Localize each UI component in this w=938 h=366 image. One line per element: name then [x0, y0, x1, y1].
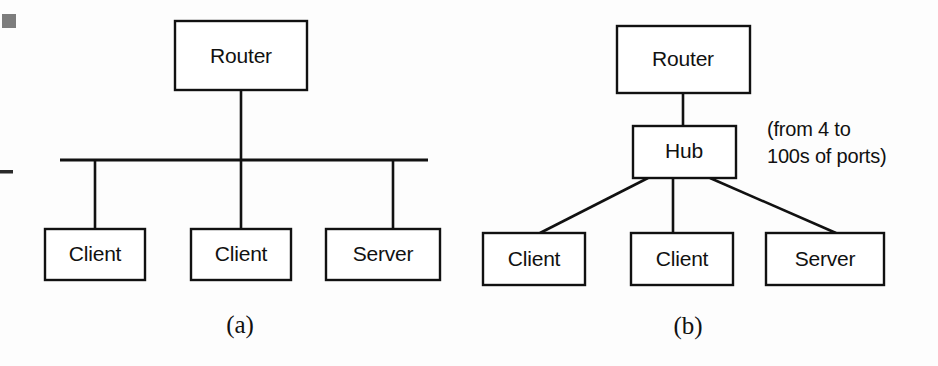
panel-b: Router Hub (from 4 to 100s of ports) Cli…: [483, 26, 887, 340]
network-topology-figure: Router Client Client Server (a): [0, 0, 938, 366]
node-client-middle-a-label: Client: [215, 242, 268, 265]
node-client-middle-b: Client: [631, 233, 733, 285]
node-server-b-label: Server: [795, 247, 856, 270]
node-client-middle-a: Client: [191, 229, 291, 280]
node-server-b: Server: [766, 233, 884, 285]
hub-port-annotation-line1: (from 4 to: [767, 118, 851, 140]
node-client-left-a-label: Client: [69, 242, 122, 265]
scan-speck-artifact: [2, 14, 16, 28]
node-client-middle-b-label: Client: [656, 247, 709, 270]
scan-dash-artifact: [0, 170, 13, 174]
diagram-canvas: Router Client Client Server (a): [0, 0, 938, 366]
panel-a: Router Client Client Server (a): [45, 21, 440, 339]
node-router-b: Router: [617, 26, 750, 93]
link-hub-to-server-b: [710, 178, 836, 233]
node-client-left-b-label: Client: [508, 247, 561, 270]
node-hub-b-label: Hub: [665, 139, 703, 162]
panel-a-caption: (a): [226, 311, 254, 339]
hub-port-annotation: (from 4 to 100s of ports): [767, 118, 887, 167]
node-router-a: Router: [175, 21, 307, 90]
node-hub-b: Hub: [633, 126, 736, 178]
node-server-a: Server: [326, 229, 440, 280]
node-server-a-label: Server: [353, 242, 414, 265]
panel-b-caption: (b): [673, 312, 702, 340]
hub-port-annotation-line2: 100s of ports): [767, 145, 887, 167]
link-hub-to-client-left-b: [540, 178, 648, 233]
node-router-a-label: Router: [210, 44, 272, 67]
node-client-left-a: Client: [45, 229, 145, 280]
node-router-b-label: Router: [652, 47, 714, 70]
node-client-left-b: Client: [483, 233, 585, 285]
